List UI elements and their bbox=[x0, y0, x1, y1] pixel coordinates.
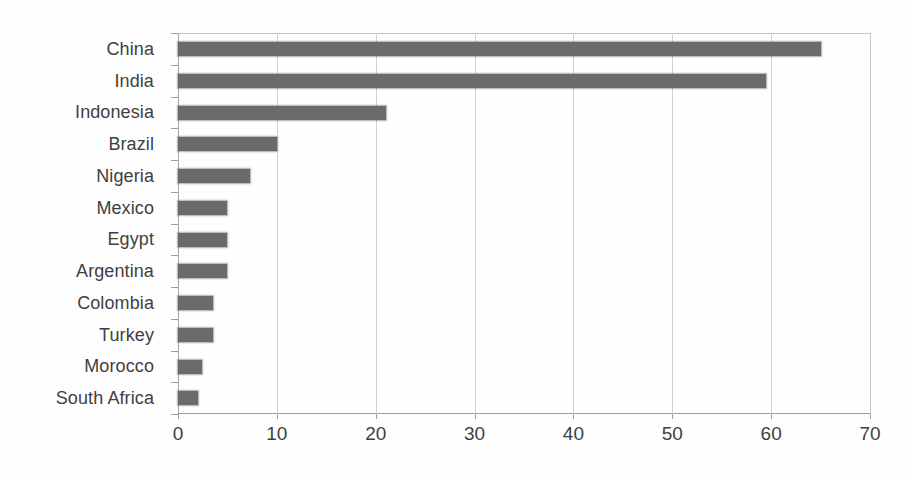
bar-nigeria bbox=[178, 169, 250, 183]
y-axis-label-south-africa: South Africa bbox=[0, 382, 163, 414]
x-tick-label-70: 70 bbox=[859, 424, 880, 443]
y-tick-4 bbox=[171, 192, 178, 193]
y-tick-8 bbox=[171, 319, 178, 320]
x-tick-20 bbox=[376, 414, 377, 419]
x-tick-50 bbox=[672, 414, 673, 419]
bar-brazil bbox=[178, 137, 277, 151]
y-tick-3 bbox=[171, 160, 178, 161]
y-axis-label-turkey: Turkey bbox=[0, 319, 163, 351]
gridline-70 bbox=[870, 33, 871, 414]
bar-china bbox=[178, 42, 821, 56]
x-tick-label-60: 60 bbox=[761, 424, 782, 443]
y-tick-top bbox=[171, 33, 178, 34]
y-axis-label-nigeria: Nigeria bbox=[0, 160, 163, 192]
plot-area bbox=[178, 33, 870, 414]
y-axis-label-argentina: Argentina bbox=[0, 255, 163, 287]
bar-turkey bbox=[178, 328, 213, 342]
x-tick-60 bbox=[771, 414, 772, 419]
bar-row bbox=[178, 128, 870, 160]
x-tick-30 bbox=[475, 414, 476, 419]
x-tick-40 bbox=[573, 414, 574, 419]
bar-series bbox=[178, 33, 870, 414]
y-tick-1 bbox=[171, 97, 178, 98]
x-tick-label-40: 40 bbox=[563, 424, 584, 443]
y-axis-label-colombia: Colombia bbox=[0, 287, 163, 319]
bar-row bbox=[178, 287, 870, 319]
bar-south-africa bbox=[178, 391, 198, 405]
x-axis-tick-labels: 010203040506070 bbox=[178, 424, 870, 454]
bar-chart: China India Indonesia Brazil Nigeria Mex… bbox=[0, 0, 910, 481]
y-tick-6 bbox=[171, 255, 178, 256]
y-axis-label-morocco: Morocco bbox=[0, 351, 163, 383]
bar-mexico bbox=[178, 201, 227, 215]
bar-row bbox=[178, 33, 870, 65]
y-tick-9 bbox=[171, 351, 178, 352]
x-tick-label-50: 50 bbox=[662, 424, 683, 443]
bar-argentina bbox=[178, 264, 227, 278]
bar-indonesia bbox=[178, 106, 386, 120]
bar-india bbox=[178, 74, 766, 88]
bar-row bbox=[178, 351, 870, 383]
x-tick-10 bbox=[277, 414, 278, 419]
y-tick-5 bbox=[171, 224, 178, 225]
bar-morocco bbox=[178, 360, 202, 374]
y-tick-0 bbox=[171, 65, 178, 66]
y-axis-label-indonesia: Indonesia bbox=[0, 97, 163, 129]
y-axis-label-egypt: Egypt bbox=[0, 224, 163, 256]
y-tick-10 bbox=[171, 382, 178, 383]
x-tick-70 bbox=[870, 414, 871, 419]
y-axis-label-brazil: Brazil bbox=[0, 128, 163, 160]
y-tick-7 bbox=[171, 287, 178, 288]
bar-row bbox=[178, 65, 870, 97]
y-axis-label-india: India bbox=[0, 65, 163, 97]
x-tick-0 bbox=[178, 414, 179, 419]
y-axis-label-mexico: Mexico bbox=[0, 192, 163, 224]
x-tick-label-20: 20 bbox=[365, 424, 386, 443]
x-tick-label-10: 10 bbox=[266, 424, 287, 443]
y-tick-2 bbox=[171, 128, 178, 129]
bar-row bbox=[178, 97, 870, 129]
bar-row bbox=[178, 160, 870, 192]
bar-row bbox=[178, 224, 870, 256]
y-tick-11 bbox=[171, 414, 178, 415]
bar-egypt bbox=[178, 233, 227, 247]
bar-row bbox=[178, 255, 870, 287]
y-axis-label-china: China bbox=[0, 33, 163, 65]
bar-row bbox=[178, 192, 870, 224]
bar-colombia bbox=[178, 296, 213, 310]
x-tick-label-0: 0 bbox=[173, 424, 184, 443]
bar-row bbox=[178, 382, 870, 414]
y-axis-category-labels: China India Indonesia Brazil Nigeria Mex… bbox=[0, 33, 163, 414]
bar-row bbox=[178, 319, 870, 351]
x-tick-label-30: 30 bbox=[464, 424, 485, 443]
